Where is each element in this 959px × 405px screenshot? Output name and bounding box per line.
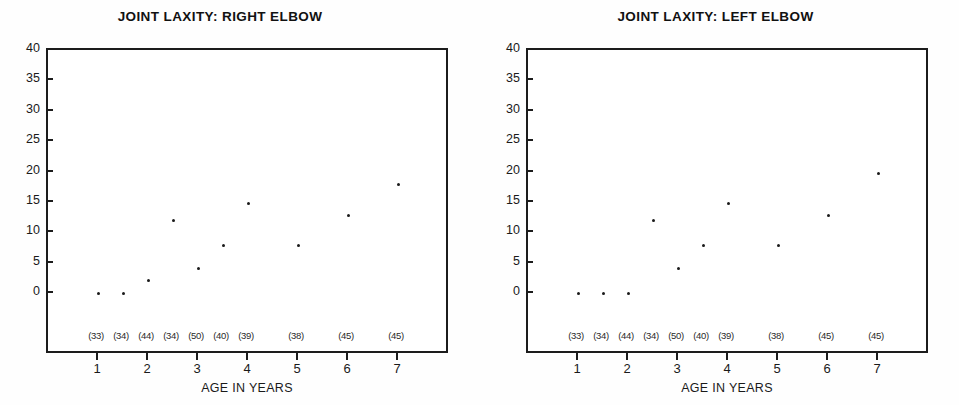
y-axis-tick-label: 30	[492, 103, 520, 115]
x-axis-title: AGE IN YEARS	[46, 381, 448, 395]
y-axis-labels: 4035302520151050	[486, 0, 520, 405]
sample-count-label: (45)	[376, 330, 416, 341]
y-axis-tick-label: 20	[12, 164, 40, 176]
x-axis-tick-label: 7	[865, 361, 889, 376]
x-axis-tick-label: 2	[615, 361, 639, 376]
data-point	[827, 214, 830, 217]
x-axis-tick-label: 4	[715, 361, 739, 376]
y-axis-tick-label: 0	[492, 285, 520, 297]
data-point	[627, 292, 630, 295]
y-axis-tick-mark	[46, 261, 53, 263]
y-axis-tick-label: 25	[12, 133, 40, 145]
x-axis-tick-mark	[96, 353, 98, 360]
x-axis-tick-mark	[246, 353, 248, 360]
x-axis-title: AGE IN YEARS	[526, 381, 928, 395]
data-point	[347, 214, 350, 217]
data-point	[197, 267, 200, 270]
figure-container: JOINT LAXITY: RIGHT ELBOW 40353025201510…	[0, 0, 959, 405]
y-axis-tick-mark	[526, 230, 533, 232]
y-axis-tick-mark	[46, 170, 53, 172]
x-axis-tick-mark	[626, 353, 628, 360]
data-point	[122, 292, 125, 295]
y-axis-tick-label: 0	[12, 285, 40, 297]
sample-count-label: (39)	[706, 330, 746, 341]
x-axis-tick-mark	[876, 353, 878, 360]
y-axis-tick-label: 40	[492, 42, 520, 54]
x-axis-tick-label: 1	[565, 361, 589, 376]
sample-count-label: (45)	[326, 330, 366, 341]
y-axis-tick-mark	[526, 109, 533, 111]
y-axis-tick-mark	[46, 291, 53, 293]
x-axis-tick-label: 6	[815, 361, 839, 376]
y-axis-tick-mark	[526, 170, 533, 172]
chart-panel-left-elbow: JOINT LAXITY: LEFT ELBOW 403530252015105…	[480, 0, 959, 405]
sample-count-label: (45)	[856, 330, 896, 341]
y-axis-tick-label: 5	[12, 255, 40, 267]
chart-title: JOINT LAXITY: LEFT ELBOW	[496, 9, 935, 24]
y-axis-tick-mark	[526, 48, 533, 50]
y-axis-tick-mark	[526, 261, 533, 263]
plot-frame	[526, 48, 928, 353]
data-point	[602, 292, 605, 295]
y-axis-tick-mark	[46, 200, 53, 202]
plot-frame	[46, 48, 448, 353]
sample-count-label: (38)	[756, 330, 796, 341]
chart-title: JOINT LAXITY: RIGHT ELBOW	[0, 9, 440, 24]
x-axis-tick-mark	[826, 353, 828, 360]
data-point	[397, 183, 400, 186]
data-point	[727, 202, 730, 205]
x-axis-tick-label: 5	[765, 361, 789, 376]
data-point	[247, 202, 250, 205]
sample-count-label: (39)	[226, 330, 266, 341]
y-axis-tick-label: 10	[492, 224, 520, 236]
data-point	[702, 244, 705, 247]
x-axis-tick-label: 2	[135, 361, 159, 376]
x-axis-tick-mark	[296, 353, 298, 360]
y-axis-tick-mark	[46, 48, 53, 50]
data-point	[677, 267, 680, 270]
chart-panel-right-elbow: JOINT LAXITY: RIGHT ELBOW 40353025201510…	[0, 0, 479, 405]
sample-count-label: (45)	[806, 330, 846, 341]
data-point	[577, 292, 580, 295]
x-axis-tick-mark	[726, 353, 728, 360]
x-axis-tick-mark	[776, 353, 778, 360]
y-axis-tick-mark	[46, 230, 53, 232]
y-axis-tick-label: 40	[12, 42, 40, 54]
x-axis-tick-mark	[346, 353, 348, 360]
y-axis-labels: 4035302520151050	[6, 0, 40, 405]
data-point	[877, 172, 880, 175]
y-axis-tick-label: 10	[12, 224, 40, 236]
x-axis-tick-label: 1	[85, 361, 109, 376]
y-axis-tick-mark	[526, 291, 533, 293]
y-axis-tick-mark	[46, 139, 53, 141]
x-axis-tick-label: 3	[665, 361, 689, 376]
data-point	[147, 279, 150, 282]
x-axis-tick-label: 3	[185, 361, 209, 376]
x-axis-tick-label: 6	[335, 361, 359, 376]
x-axis-tick-mark	[676, 353, 678, 360]
y-axis-tick-label: 5	[492, 255, 520, 267]
data-point	[222, 244, 225, 247]
data-point	[297, 244, 300, 247]
y-axis-tick-mark	[526, 139, 533, 141]
sample-count-label: (38)	[276, 330, 316, 341]
x-axis-tick-label: 5	[285, 361, 309, 376]
x-axis-tick-mark	[196, 353, 198, 360]
y-axis-tick-label: 25	[492, 133, 520, 145]
y-axis-tick-label: 20	[492, 164, 520, 176]
x-axis-tick-label: 7	[385, 361, 409, 376]
data-point	[777, 244, 780, 247]
y-axis-tick-label: 15	[492, 194, 520, 206]
data-point	[97, 292, 100, 295]
data-point	[652, 219, 655, 222]
x-axis-tick-label: 4	[235, 361, 259, 376]
y-axis-tick-mark	[526, 200, 533, 202]
y-axis-tick-mark	[46, 78, 53, 80]
x-axis-tick-mark	[576, 353, 578, 360]
y-axis-tick-label: 35	[492, 72, 520, 84]
y-axis-tick-label: 30	[12, 103, 40, 115]
y-axis-tick-mark	[46, 109, 53, 111]
y-axis-tick-label: 15	[12, 194, 40, 206]
x-axis-tick-mark	[396, 353, 398, 360]
y-axis-tick-label: 35	[12, 72, 40, 84]
